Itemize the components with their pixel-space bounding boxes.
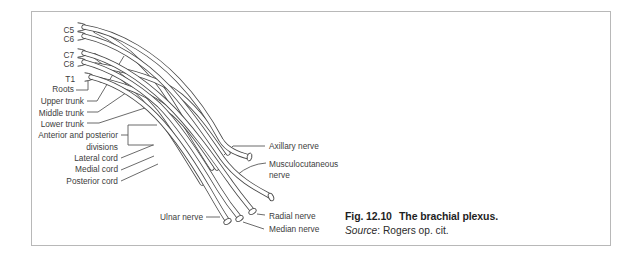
figure-page: C5 C6 C7 C8 T1 Roots Upper trunk Middle … [0,0,638,259]
label-musculocutaneous-line2: nerve [269,170,290,180]
label-c8: C8 [63,59,74,69]
label-axillary-nerve: Axillary nerve [269,141,319,151]
source-text: : Rogers op. cit. [377,225,448,236]
label-ulnar-nerve: Ulnar nerve [160,212,203,222]
figure-source: Source: Rogers op. cit. [345,225,449,236]
label-middle-trunk: Middle trunk [39,108,85,118]
label-radial-nerve: Radial nerve [269,211,316,221]
figure-number: Fig. 12.10 [345,210,392,222]
label-c6: C6 [63,34,74,44]
label-t1: T1 [65,74,75,84]
label-median-nerve: Median nerve [269,224,320,234]
brachial-plexus-figure: C5 C6 C7 C8 T1 Roots Upper trunk Middle … [0,0,638,259]
label-posterior-cord: Posterior cord [66,176,118,186]
figure-caption: Fig. 12.10The brachial plexus. [345,210,498,222]
label-musculocutaneous-line1: Musculocutaneous [269,159,338,169]
source-word: Source [345,225,378,236]
label-divisions-line1: Anterior and posterior [38,130,118,140]
label-upper-trunk: Upper trunk [41,96,85,106]
label-lower-trunk: Lower trunk [41,119,85,129]
label-lateral-cord: Lateral cord [74,153,118,163]
label-divisions-line2: divisions [86,142,118,152]
label-roots: Roots [52,84,74,94]
label-medial-cord: Medial cord [75,164,118,174]
figure-title: The brachial plexus. [399,210,498,222]
